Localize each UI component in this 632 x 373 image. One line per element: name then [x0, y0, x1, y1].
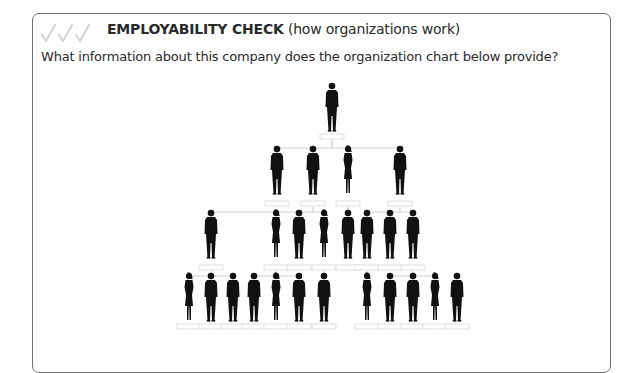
organization-chart [0, 0, 632, 348]
